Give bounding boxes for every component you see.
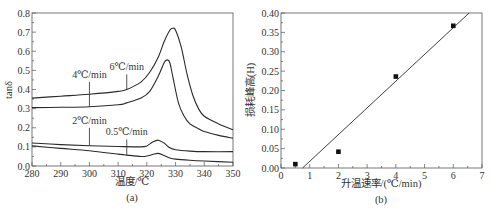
- series-label: 4℃/min: [72, 69, 107, 80]
- x-tick-label: 290: [53, 168, 68, 179]
- y-tick-label: 0.30: [262, 46, 280, 57]
- x-tick-label: 1: [307, 170, 312, 181]
- chart-a-y-tick-labels: 0.00.10.20.30.40.50.60.70.8: [18, 8, 31, 172]
- y-tick-label: 0.2: [18, 122, 31, 133]
- chart-b-caption: (b): [375, 194, 388, 206]
- chart-a-y-axis-title: tanδ: [3, 81, 14, 99]
- y-tick-label: 0.10: [262, 124, 280, 135]
- x-tick-label: 7: [480, 170, 485, 181]
- y-tick-label: 0.00: [262, 163, 280, 174]
- chart-b-plot-frame: [281, 13, 482, 168]
- y-tick-label: 0.20: [262, 85, 280, 96]
- x-tick-label: 0: [279, 170, 284, 181]
- chart-a-curves: [32, 28, 233, 162]
- data-point-square-marker: [451, 23, 456, 28]
- figure-canvas: 280290300310320330340350 0.00.10.20.30.4…: [0, 0, 490, 213]
- figure: 280290300310320330340350 0.00.10.20.30.4…: [0, 0, 490, 213]
- chart-b-fit-line: [303, 13, 470, 168]
- chart-b-loss-peak-height-vs-heating-rate: 01234567 0.000.050.100.150.200.250.300.3…: [244, 8, 485, 207]
- y-tick-label: 0.4: [18, 84, 31, 95]
- chart-a-x-axis-title: 温度/℃: [115, 175, 150, 187]
- y-tick-label: 0.5: [18, 65, 31, 76]
- y-tick-label: 0.05: [262, 143, 280, 154]
- curve-0.5-c-per-min: [32, 146, 233, 162]
- y-tick-label: 0.35: [262, 27, 280, 38]
- y-tick-label: 0.3: [18, 103, 31, 114]
- x-tick-label: 350: [226, 168, 241, 179]
- x-tick-label: 330: [168, 168, 183, 179]
- y-tick-label: 0.7: [18, 27, 31, 38]
- chart-b-x-axis-title: 升温速率/(℃/min): [341, 177, 422, 190]
- series-label: 2℃/min: [72, 115, 107, 126]
- x-tick-label: 6: [451, 170, 456, 181]
- chart-b-y-axis-title: 损耗峰高(H): [244, 62, 257, 117]
- series-label: 0.5℃/min: [106, 126, 148, 137]
- chart-a-caption: (a): [126, 192, 138, 204]
- chart-a-tan-delta-vs-temperature: 280290300310320330340350 0.00.10.20.30.4…: [3, 8, 241, 205]
- x-tick-label: 300: [82, 168, 97, 179]
- x-tick-label: 5: [422, 170, 427, 181]
- data-point-square-marker: [336, 149, 341, 154]
- y-tick-label: 0.6: [18, 46, 31, 57]
- y-tick-label: 0.8: [18, 8, 31, 19]
- y-tick-label: 0.1: [18, 141, 31, 152]
- chart-b-y-tick-labels: 0.000.050.100.150.200.250.300.350.40: [262, 8, 280, 174]
- y-tick-label: 0.0: [18, 161, 31, 172]
- linear-fit-line: [303, 13, 470, 168]
- curve-6-c-per-min: [32, 28, 233, 130]
- curve-2-c-per-min: [32, 140, 233, 152]
- chart-a-ticks: [32, 13, 233, 166]
- data-point-square-marker: [394, 74, 399, 79]
- chart-b-ticks: [281, 13, 482, 168]
- chart-b-data-points: [293, 23, 456, 166]
- data-point-square-marker: [293, 162, 298, 167]
- x-tick-label: 340: [197, 168, 212, 179]
- chart-a-plot-frame: [32, 13, 233, 166]
- y-tick-label: 0.25: [262, 66, 280, 77]
- series-label: 6℃/min: [109, 61, 144, 72]
- y-tick-label: 0.15: [262, 104, 280, 115]
- y-tick-label: 0.40: [262, 8, 280, 19]
- chart-a-annotations: 6℃/min4℃/min2℃/min0.5℃/min: [72, 61, 148, 155]
